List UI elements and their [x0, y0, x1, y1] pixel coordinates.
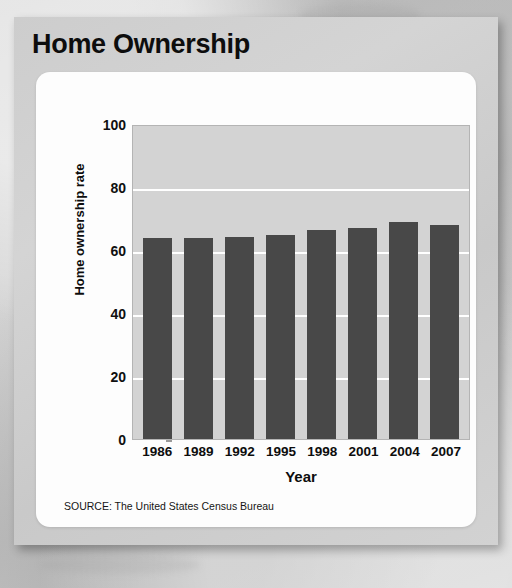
x-axis-tick-label: 1986: [142, 444, 171, 459]
y-axis-tick-label: 40: [82, 306, 126, 322]
source-note: SOURCE: The United States Census Bureau: [64, 500, 274, 512]
y-axis-tick-label: 100: [82, 117, 126, 133]
x-axis-tick-label: 2001: [348, 444, 377, 459]
y-axis-tick-mark: [166, 440, 172, 442]
y-axis-tick-label: 60: [82, 243, 126, 259]
bars-layer: [133, 126, 469, 439]
x-axis-tick-label: 1992: [225, 444, 254, 459]
y-axis-ticks: 020406080100: [76, 125, 126, 440]
y-axis-tick-label: 80: [82, 180, 126, 196]
y-axis-tick-label: 20: [82, 369, 126, 385]
bar-2007: [430, 225, 459, 440]
bar-2004: [389, 222, 418, 439]
bar-1986: [143, 238, 172, 439]
chart-panel: Home ownership rate 020406080100 1986198…: [36, 72, 476, 527]
x-axis-tick-label: 1995: [266, 444, 295, 459]
bar-1992: [225, 237, 254, 439]
x-axis-tick-label: 2004: [390, 444, 419, 459]
x-axis-title: Year: [132, 468, 470, 485]
x-axis-ticks: 19861989199219951998200120042007: [132, 444, 470, 459]
figure-card: Home Ownership Home ownership rate 02040…: [14, 17, 498, 545]
bar-2001: [348, 228, 377, 439]
y-axis-tick-label: 0: [82, 432, 126, 448]
bar-1989: [184, 238, 213, 439]
x-axis-tick-label: 1998: [307, 444, 336, 459]
page-title: Home Ownership: [32, 29, 250, 60]
bar-chart: Home ownership rate 020406080100 1986198…: [36, 72, 476, 527]
x-axis-tick-label: 1989: [183, 444, 212, 459]
bar-1995: [266, 235, 295, 439]
plot-area: [132, 125, 470, 440]
x-axis-tick-label: 2007: [431, 444, 460, 459]
bar-1998: [307, 230, 336, 439]
